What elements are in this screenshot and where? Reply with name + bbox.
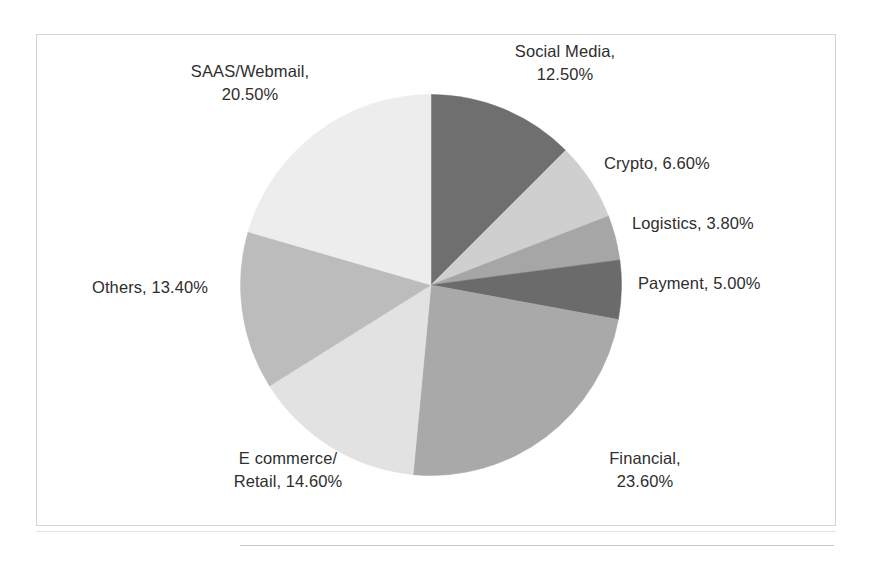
pie-label-saas-webmail: SAAS/Webmail, 20.50% xyxy=(130,60,370,107)
pie-label-financial: Financial, 23.60% xyxy=(560,447,730,494)
pie-label-logistics: Logistics, 3.80% xyxy=(632,212,842,235)
frame-bottom-edge xyxy=(36,531,836,532)
pie-chart: Social Media, 12.50% Crypto, 6.60% Logis… xyxy=(0,0,874,564)
pie-label-others: Others, 13.40% xyxy=(92,276,292,299)
pie-label-e-commerce-retail: E commerce/ Retail, 14.60% xyxy=(178,447,398,494)
pie-label-social-media: Social Media, 12.50% xyxy=(455,40,675,87)
pie-label-crypto: Crypto, 6.60% xyxy=(604,152,834,175)
page-footer-rule xyxy=(240,545,834,546)
pie-chart-slices xyxy=(240,94,622,476)
pie-label-payment: Payment, 5.00% xyxy=(638,272,848,295)
